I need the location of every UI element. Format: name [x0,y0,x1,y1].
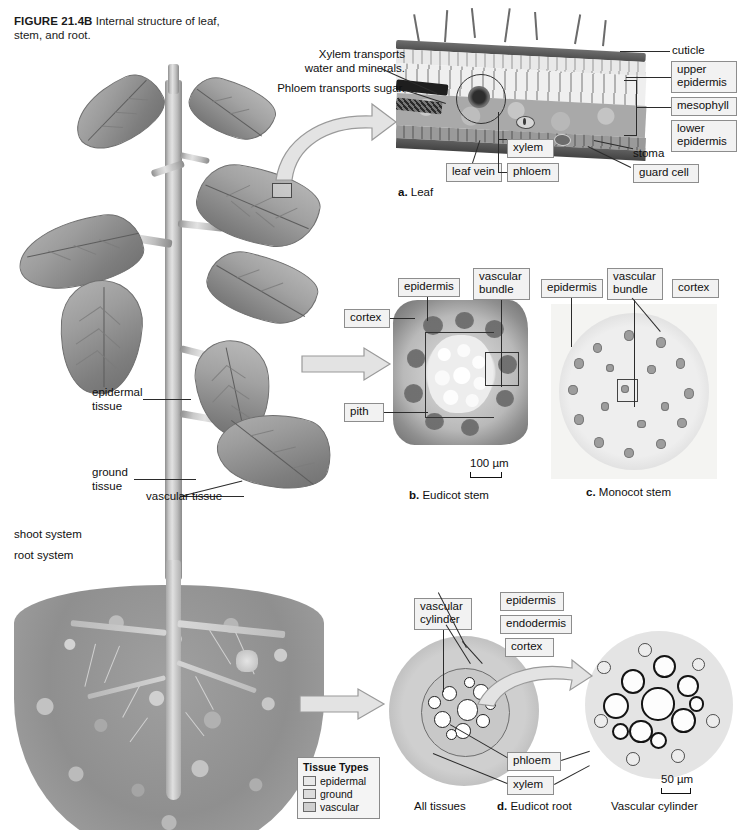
caption-panel-b-text: Eudicot stem [422,489,488,501]
legend-swatch-ground [303,789,316,799]
label-root-xylem: xylem [507,776,554,795]
caption-panel-c: c. Monocot stem [586,486,671,498]
label-root-endodermis: endodermis [500,615,572,634]
label-guard-cell: guard cell [633,164,699,183]
label-stoma: stoma [633,146,683,163]
label-mesophyll: mesophyll [671,97,737,116]
leader-cuticle [620,51,670,52]
legend-label-epidermal: epidermal [320,775,366,787]
leaf-inset-box [272,183,292,198]
stoma-pore [523,118,526,125]
caption-panel-a-text: Leaf [411,186,433,198]
label-leaf-phloem: phloem [507,163,559,182]
label-monocot-epidermis: epidermis [541,279,603,298]
arrow-root-callout [476,660,594,708]
leader-leaf-xylem-2 [498,139,507,140]
leaf-mid-left [14,210,148,295]
caption-panel-d-text: Eudicot root [510,800,571,812]
leader-root-vascular-cylinder [443,630,444,692]
root-vascular-cylinder-micrograph [585,631,733,779]
legend-swatch-vascular [303,802,316,812]
label-root-phloem: phloem [507,752,561,771]
leaf-lower-left [56,277,146,396]
scalebar-root-text: 50 µm [661,773,691,785]
figure-root: FIGURE 21.4B Internal structure of leaf,… [0,0,741,831]
caption-panel-a: a. Leaf [398,186,433,198]
caption-root-all-tissues: All tissues [414,800,466,812]
statement-xylem-transports: Xylem transports water and minerals. [255,48,405,75]
scalebar-eudicot-stem: 100 µm [470,472,502,478]
label-ground-tissue: ground tissue [92,466,154,493]
legend-item-ground: ground [303,788,374,800]
legend-title: Tissue Types [303,761,374,773]
leader-eudicot-pith [384,412,428,413]
leader-eudicot-vascular-bundle [501,300,502,387]
leader-mesophyll [636,107,671,108]
legend-swatch-epidermal [303,776,316,786]
label-leaf-xylem: xylem [507,139,554,158]
scalebar-eudicot-stem-text: 100 µm [470,457,502,469]
label-root-epidermis: epidermis [500,592,564,611]
label-root-cortex: cortex [505,638,554,657]
leader-leaf-phloem-2 [498,172,507,173]
label-monocot-vascular-bundle: vascular bundle [607,268,663,300]
stem-apex [168,64,179,94]
leader-eudicot-epidermis [427,297,428,321]
label-upper-epidermis: upper epidermis [671,61,737,93]
label-root-system: root system [14,549,73,563]
label-monocot-cortex: cortex [672,279,719,298]
arrow-plant-root-callout [298,688,386,720]
leaf-upper-left [64,65,174,158]
leaf-mid-right [201,245,324,331]
label-leaf-vein: leaf vein [446,163,502,182]
label-eudicot-vascular-bundle: vascular bundle [473,268,530,300]
label-vascular-tissue: vascular tissue [146,490,246,504]
bracket-mesophyll-top [624,80,637,81]
legend-item-epidermal: epidermal [303,775,374,787]
bracket-mesophyll [636,80,637,135]
caption-panel-b: b. Eudicot stem [409,489,489,501]
legend-label-vascular: vascular [320,801,359,813]
leader-monocot-vascular-bundle [634,300,635,407]
label-cuticle: cuticle [672,43,730,60]
arrow-stem-callout [300,346,392,384]
branch-2 [179,152,210,164]
leader-leaf-xylem [498,112,499,139]
caption-panel-d: d. Eudicot root [497,800,572,812]
caption-panel-c-text: Monocot stem [599,486,671,498]
eudicot-stem-micrograph [393,300,528,445]
caption-panel-c-letter: c. [586,486,596,498]
legend-label-ground: ground [320,788,353,800]
label-shoot-system: shoot system [14,528,82,542]
eudicot-pith-box [425,332,494,418]
caption-panel-d-letter: d. [497,800,507,812]
caption-panel-a-letter: a. [398,186,408,198]
caption-panel-b-letter: b. [409,489,419,501]
root-callout-source [236,650,258,672]
statement-phloem-transports: Phloem transports sugar. [246,82,405,96]
scalebar-root: 50 µm [661,788,691,794]
figure-caption: FIGURE 21.4B Internal structure of leaf,… [14,14,244,42]
leader-eudicot-cortex [390,318,415,319]
taproot [166,560,181,800]
label-epidermal-tissue: epidermal tissue [92,386,156,413]
label-eudicot-pith: pith [344,403,384,422]
leader-leaf-phloem [498,139,499,172]
label-eudicot-epidermis: epidermis [398,278,460,297]
leader-upper-epidermis [626,77,671,78]
caption-root-vascular-cylinder: Vascular cylinder [611,800,698,812]
figure-number: FIGURE 21.4B [14,15,93,27]
bracket-mesophyll-bottom [624,135,637,136]
legend-item-vascular: vascular [303,801,374,813]
tissue-types-legend: Tissue Types epidermal ground vascular [297,757,380,819]
arrow-leaf-callout [268,96,400,182]
label-eudicot-cortex: cortex [344,309,390,328]
leader-monocot-epidermis [571,298,572,347]
